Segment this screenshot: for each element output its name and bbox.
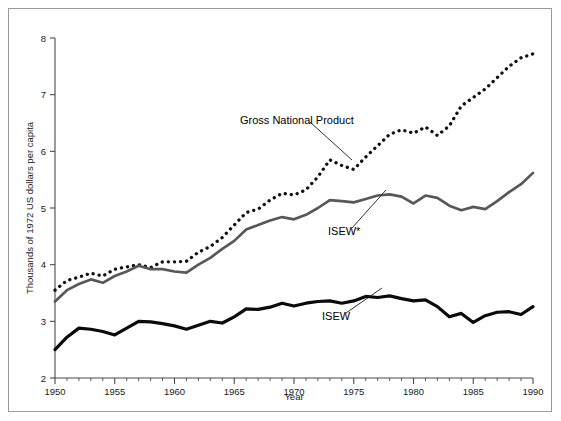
- chart-figure: 2345678 19501955196019651970197519801985…: [0, 0, 561, 421]
- y-tick-label: 3: [41, 316, 46, 327]
- chart-annotations: Gross National ProductISEW*ISEW: [240, 114, 386, 322]
- y-axis-tick-labels: 2345678: [41, 33, 46, 384]
- y-axis-title: Thousands of 1972 US dollars per capita: [24, 121, 35, 294]
- chart-series-group: [55, 54, 533, 350]
- series-line-isew: [55, 296, 533, 350]
- annotation-gnp: Gross National Product: [240, 114, 354, 126]
- y-axis-ticks: [50, 38, 55, 378]
- y-tick-label: 5: [41, 203, 46, 214]
- x-axis-title: Year: [284, 391, 303, 402]
- x-tick-label: 1975: [343, 386, 364, 397]
- x-tick-label: 1955: [104, 386, 125, 397]
- annotation-isew: ISEW: [322, 310, 351, 322]
- x-tick-label: 1990: [522, 386, 543, 397]
- chart-plot-area: 2345678 19501955196019651970197519801985…: [0, 0, 561, 421]
- x-tick-label: 1965: [224, 386, 245, 397]
- x-tick-label: 1960: [164, 386, 185, 397]
- y-tick-label: 4: [41, 259, 46, 270]
- x-tick-label: 1985: [463, 386, 484, 397]
- y-tick-label: 2: [41, 373, 46, 384]
- x-tick-label: 1950: [44, 386, 65, 397]
- x-tick-label: 1980: [403, 386, 424, 397]
- annotation-leader-line: [352, 190, 386, 228]
- y-tick-label: 8: [41, 33, 46, 44]
- annotation-leader-line: [310, 122, 352, 160]
- series-line-isew-star: [55, 173, 533, 302]
- y-tick-label: 6: [41, 146, 46, 157]
- series-line-gnp: [55, 54, 533, 290]
- y-tick-label: 7: [41, 89, 46, 100]
- annotation-isew-star: ISEW*: [328, 225, 361, 237]
